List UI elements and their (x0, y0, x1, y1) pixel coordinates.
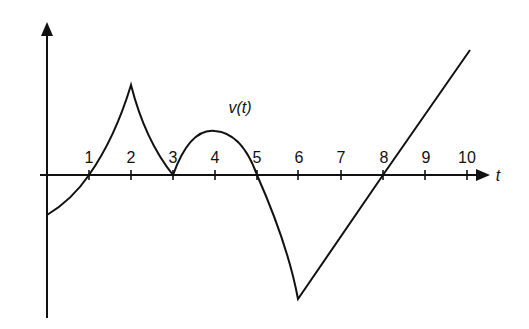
x-axis-arrow-icon (476, 169, 490, 181)
tick-label-7: 7 (337, 150, 346, 166)
tick-label-3: 3 (169, 150, 178, 166)
tick-label-10: 10 (458, 150, 476, 166)
tick-label-1: 1 (85, 150, 94, 166)
tick-label-5: 5 (253, 150, 262, 166)
curve-label: v(t) (228, 100, 251, 116)
x-axis-label: t (496, 168, 500, 184)
y-axis-arrow-icon (41, 22, 53, 36)
tick-label-8: 8 (380, 150, 389, 166)
tick-label-4: 4 (211, 150, 220, 166)
tick-label-2: 2 (127, 150, 136, 166)
chart-canvas (0, 0, 529, 329)
tick-label-9: 9 (422, 150, 431, 166)
tick-label-6: 6 (295, 150, 304, 166)
